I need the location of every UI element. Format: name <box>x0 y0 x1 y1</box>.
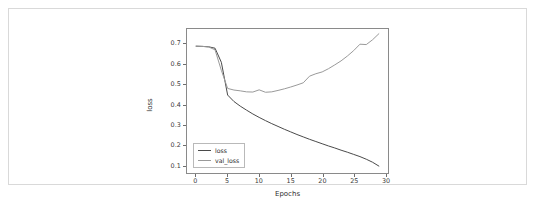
legend-label-loss: loss <box>215 147 227 154</box>
y-tick-label: 0.4 <box>171 101 181 109</box>
content-panel: loss 0.10.20.30.40.50.60.7 051015202530 … <box>8 8 527 185</box>
legend-item-loss: loss <box>198 147 239 154</box>
x-tick-label: 20 <box>318 177 326 185</box>
x-tick-label: 15 <box>287 177 295 185</box>
chart-legend: loss val_loss <box>193 143 245 168</box>
y-tick-label: 0.1 <box>171 162 181 170</box>
x-tick-label: 25 <box>350 177 358 185</box>
x-tick-mark <box>291 174 292 177</box>
x-tick-mark <box>259 174 260 177</box>
y-tick-label: 0.3 <box>171 121 181 129</box>
x-tick-mark <box>227 174 228 177</box>
series-line-val-loss <box>196 34 379 93</box>
legend-item-val-loss: val_loss <box>198 157 239 164</box>
legend-swatch-loss <box>198 150 211 151</box>
x-tick-mark <box>195 174 196 177</box>
y-axis-label: loss <box>146 98 154 112</box>
plot-axes: loss val_loss <box>186 28 389 174</box>
chart-figure: loss 0.10.20.30.40.50.60.7 051015202530 … <box>149 15 399 201</box>
legend-label-val-loss: val_loss <box>215 157 239 164</box>
y-tick-label: 0.5 <box>171 80 181 88</box>
x-tick-mark <box>354 174 355 177</box>
x-tick-mark <box>323 174 324 177</box>
x-tick-label: 10 <box>255 177 263 185</box>
x-tick-mark <box>386 174 387 177</box>
x-tick-label: 30 <box>382 177 390 185</box>
y-tick-label: 0.6 <box>171 60 181 68</box>
x-tick-label: 5 <box>225 177 229 185</box>
y-tick-label: 0.2 <box>171 141 181 149</box>
legend-swatch-val-loss <box>198 160 211 161</box>
x-axis-label: Epochs <box>186 190 389 198</box>
x-tick-label: 0 <box>193 177 197 185</box>
screenshot-root: loss 0.10.20.30.40.50.60.7 051015202530 … <box>0 0 537 201</box>
y-tick-label: 0.7 <box>171 39 181 47</box>
